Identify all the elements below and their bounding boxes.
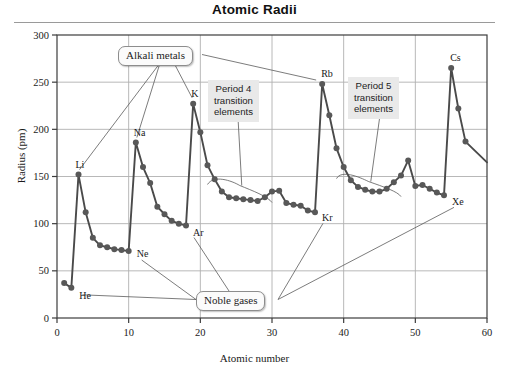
svg-text:150: 150 <box>33 171 49 182</box>
svg-text:40: 40 <box>338 327 349 338</box>
svg-text:Rb: Rb <box>321 68 333 79</box>
svg-text:30: 30 <box>267 327 278 338</box>
svg-text:Kr: Kr <box>322 212 333 223</box>
svg-text:100: 100 <box>33 218 49 229</box>
svg-text:50: 50 <box>39 265 50 276</box>
svg-text:Xe: Xe <box>452 196 464 207</box>
callout-noble-gases: Noble gases <box>196 291 265 311</box>
data-points <box>61 65 468 291</box>
svg-text:10: 10 <box>123 327 134 338</box>
svg-text:200: 200 <box>33 124 49 135</box>
data-line <box>64 68 487 288</box>
svg-text:Cs: Cs <box>450 52 461 63</box>
svg-text:60: 60 <box>482 327 493 338</box>
callout-alkali-metals: Alkali metals <box>118 46 193 66</box>
svg-text:Na: Na <box>134 127 146 138</box>
atomic-radii-figure: Atomic Radii Radius (pm) Atomic number 0… <box>0 0 509 380</box>
svg-text:K: K <box>191 88 199 99</box>
svg-text:Li: Li <box>76 159 85 170</box>
svg-text:Ne: Ne <box>137 248 149 259</box>
svg-text:250: 250 <box>33 77 49 88</box>
svg-text:0: 0 <box>54 327 59 338</box>
svg-text:50: 50 <box>410 327 421 338</box>
chart-canvas: 0501001502002503000102030405060 HeLiNeNa… <box>0 0 509 380</box>
svg-text:20: 20 <box>195 327 206 338</box>
svg-text:Ar: Ar <box>193 227 204 238</box>
gridlines <box>57 35 487 318</box>
callout-period-4-transition: Period 4 transition elements <box>208 80 259 122</box>
svg-text:300: 300 <box>33 30 49 41</box>
svg-text:0: 0 <box>44 313 49 324</box>
axis-ticks <box>52 35 487 323</box>
svg-text:He: He <box>79 290 91 301</box>
callout-period-5-transition: Period 5 transition elements <box>348 77 399 119</box>
